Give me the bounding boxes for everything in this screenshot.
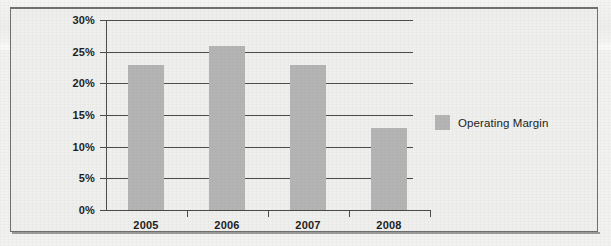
y-axis-label-10: 10% [55, 142, 95, 153]
y-axis-line [106, 20, 107, 210]
chart-legend: Operating Margin [435, 115, 548, 130]
x-tick-boundary-3 [349, 210, 350, 217]
x-axis-label-2005: 2005 [116, 219, 176, 231]
figure-frame-shadow [12, 232, 600, 234]
y-tick-30 [100, 20, 106, 21]
y-axis-label-20: 20% [55, 78, 95, 89]
legend-swatch-operating-margin [435, 115, 450, 130]
y-tick-5 [100, 178, 106, 179]
x-tick-boundary-1 [187, 210, 188, 217]
bar-2008[interactable] [371, 128, 407, 210]
x-axis-label-2008: 2008 [359, 219, 419, 231]
bar-2007[interactable] [290, 65, 326, 210]
bar-chart: 30% 25% 20% 15% 10% 5% 0% [11, 9, 599, 234]
y-tick-25 [100, 52, 106, 53]
y-axis-label-15: 15% [55, 110, 95, 121]
bar-2006[interactable] [209, 46, 245, 210]
y-axis-label-30: 30% [55, 15, 95, 26]
y-axis-label-0: 0% [55, 205, 95, 216]
bar-2005[interactable] [128, 65, 164, 210]
gridline-30 [106, 20, 413, 21]
x-axis-label-2006: 2006 [197, 219, 257, 231]
y-axis-label-25: 25% [55, 47, 95, 58]
legend-label-operating-margin: Operating Margin [458, 117, 548, 129]
x-tick-boundary-2 [268, 210, 269, 217]
x-axis-label-2007: 2007 [278, 219, 338, 231]
y-axis-label-5: 5% [55, 173, 95, 184]
y-tick-10 [100, 147, 106, 148]
y-tick-20 [100, 83, 106, 84]
gridline-25 [106, 52, 413, 53]
y-tick-15 [100, 115, 106, 116]
chart-figure-frame: 30% 25% 20% 15% 10% 5% 0% [10, 7, 598, 232]
x-tick-boundary-4 [430, 210, 431, 217]
scanned-page-background: and the market share of the top 5 compan… [0, 0, 611, 246]
